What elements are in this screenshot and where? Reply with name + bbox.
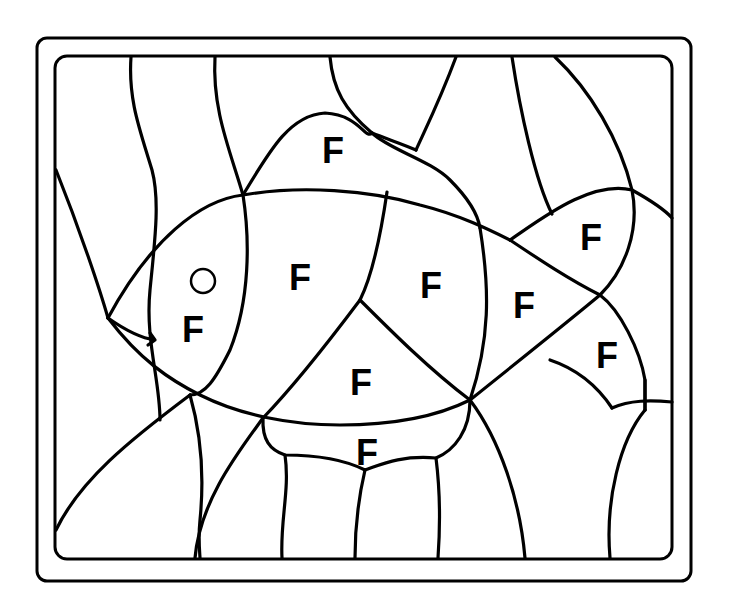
letter-body-front: F [289, 257, 311, 298]
letter-belly: F [350, 362, 372, 403]
fish-eye [191, 269, 215, 293]
letter-head: F [182, 309, 204, 350]
letter-pelvic-fin: F [356, 432, 378, 473]
letter-body-middle: F [420, 265, 442, 306]
letter-tail-lower: F [596, 335, 618, 376]
letter-dorsal-fin: F [322, 130, 344, 171]
letter-body-rear: F [513, 285, 535, 326]
outer-frame [37, 38, 691, 581]
letter-tail-upper: F [580, 217, 602, 258]
fish-outline [108, 113, 645, 470]
coloring-page: F F F F F F F F F [0, 0, 732, 615]
